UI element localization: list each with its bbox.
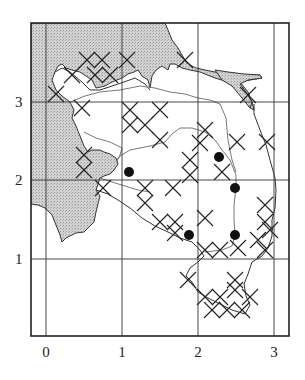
cross-marker: [257, 242, 273, 258]
x-tick-label: 3: [270, 345, 278, 360]
cross-marker: [182, 167, 198, 183]
cross-marker: [152, 102, 168, 118]
dot-markers: [124, 152, 240, 240]
cross-marker: [137, 180, 153, 196]
cross-marker: [230, 240, 246, 256]
x-tick-label: 0: [42, 345, 50, 360]
distribution-map: [0, 0, 305, 380]
x-tick-label: 1: [118, 345, 126, 360]
cross-marker: [214, 164, 230, 180]
cross-marker: [182, 152, 198, 168]
cross-marker: [250, 232, 266, 248]
dot-marker: [214, 152, 224, 162]
cross-marker: [122, 102, 138, 118]
cross-marker: [212, 242, 228, 258]
cross-marker: [192, 135, 208, 151]
cross-marker: [262, 222, 278, 238]
cross-marker: [152, 214, 168, 230]
dot-marker: [124, 167, 134, 177]
cross-marker: [137, 117, 153, 133]
y-tick-label: 3: [15, 95, 23, 110]
cross-marker: [180, 272, 196, 288]
cross-marker: [197, 210, 213, 226]
cross-marker: [227, 282, 243, 298]
cross-marker: [257, 214, 273, 230]
cross-marker: [122, 117, 138, 133]
cross-marker: [229, 134, 245, 150]
x-tick-label: 2: [194, 345, 202, 360]
cross-marker: [137, 195, 153, 211]
cross-marker: [257, 197, 273, 213]
cross-marker: [165, 180, 181, 196]
dot-marker: [184, 230, 194, 240]
cross-marker: [95, 180, 111, 196]
cross-marker: [152, 132, 168, 148]
y-tick-label: 2: [15, 173, 23, 188]
dot-marker: [230, 183, 240, 193]
cross-marker: [227, 272, 243, 288]
dot-marker: [230, 230, 240, 240]
y-tick-label: 1: [15, 252, 23, 267]
